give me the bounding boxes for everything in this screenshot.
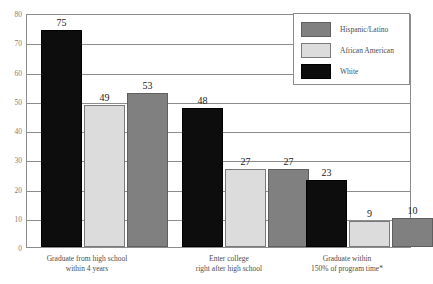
value-label-african-american-group2: 27 [225, 157, 266, 167]
value-label-african-american-group1: 49 [84, 93, 125, 103]
y-tick-label: 20 [2, 187, 22, 195]
legend-swatch-white [301, 64, 331, 79]
bar-hispanic-latino-group2 [268, 169, 309, 247]
y-tick-label: 50 [2, 99, 22, 107]
value-label-white-group3: 23 [306, 168, 347, 178]
value-label-white-group2: 48 [182, 96, 223, 106]
y-tick-label: 40 [2, 128, 22, 136]
legend-item-african-american: African American [301, 41, 394, 59]
bar-hispanic-latino-group1 [127, 93, 168, 247]
legend-item-white: White [301, 62, 358, 80]
value-label-african-american-group3: 9 [349, 209, 390, 219]
bar-hispanic-latino-group3 [392, 218, 433, 247]
bar-white-group1 [41, 30, 82, 248]
legend-label-white: White [340, 67, 358, 76]
value-label-hispanic-latino-group3: 10 [392, 206, 433, 216]
bar-african-american-group3 [349, 221, 390, 247]
legend-item-hispanic-latino: Hispanic/Latino [301, 20, 388, 38]
bar-african-american-group1 [84, 105, 125, 247]
x-category-label-1-line2: within 4 years [18, 264, 156, 274]
value-label-hispanic-latino-group2: 27 [268, 157, 309, 167]
legend: Hispanic/Latino African American White [293, 13, 410, 85]
bar-white-group2 [182, 108, 223, 247]
y-tick-label: 60 [2, 70, 22, 78]
x-category-label-3: Graduate within 150% of program time* [278, 254, 416, 274]
x-category-label-3-line2: 150% of program time* [278, 264, 416, 274]
legend-swatch-african-american [301, 43, 331, 58]
x-category-label-1: Graduate from high school within 4 years [18, 254, 156, 274]
legend-label-african-american: African American [340, 46, 394, 55]
bar-african-american-group2 [225, 169, 266, 247]
legend-label-hispanic-latino: Hispanic/Latino [340, 25, 388, 34]
y-tick-label: 0 [2, 245, 22, 253]
value-label-white-group1: 75 [41, 18, 82, 28]
legend-swatch-hispanic-latino [301, 22, 331, 37]
y-tick-label: 30 [2, 157, 22, 165]
value-label-hispanic-latino-group1: 53 [127, 81, 168, 91]
y-tick-label: 70 [2, 40, 22, 48]
bar-white-group3 [306, 180, 347, 247]
y-tick-label: 10 [2, 216, 22, 224]
x-category-label-3-line1: Graduate within [278, 254, 416, 264]
y-tick-label: 80 [2, 11, 22, 19]
x-category-label-1-line1: Graduate from high school [18, 254, 156, 264]
